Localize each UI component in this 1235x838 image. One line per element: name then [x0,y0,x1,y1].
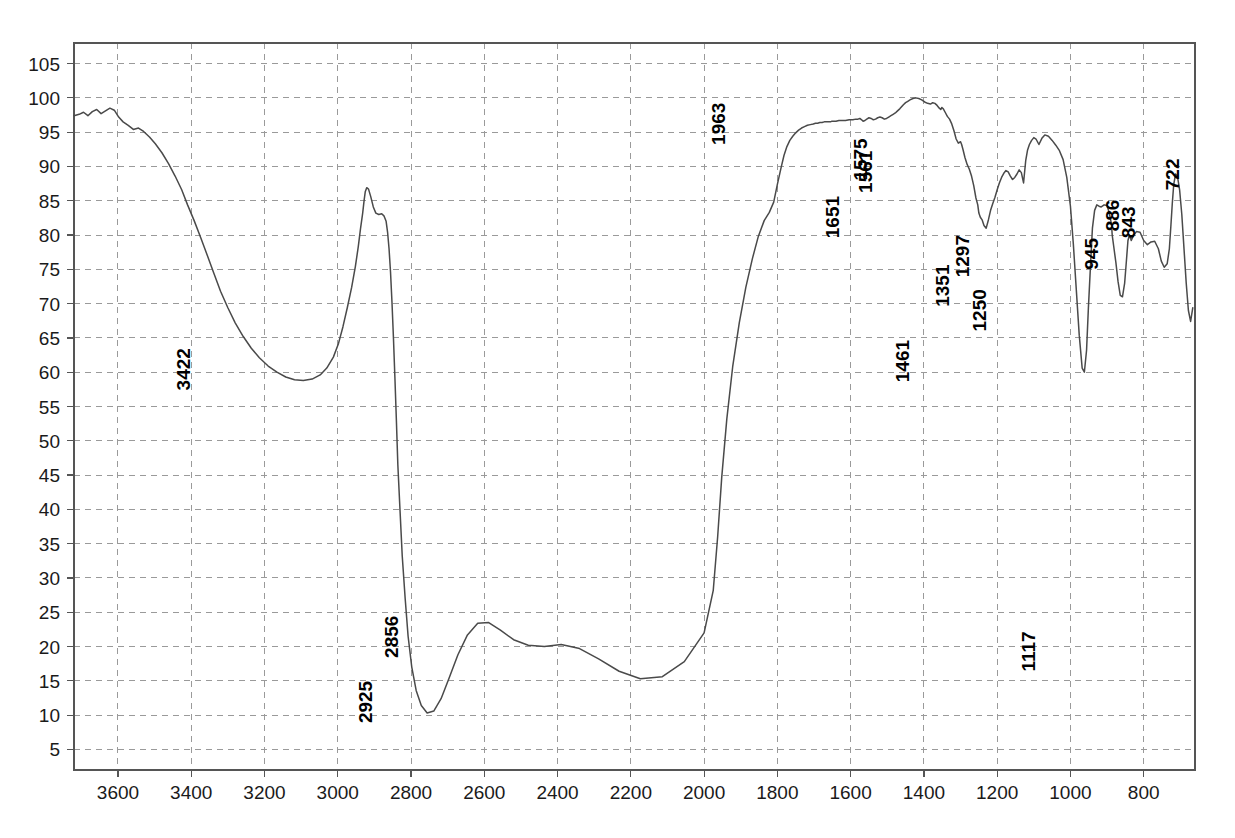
y-tick-label: 90 [39,156,60,177]
x-tick-label: 2800 [390,782,432,803]
peak-annotations: 3422292528561963165115751561146113511297… [173,103,1183,723]
x-tick-label: 3400 [170,782,212,803]
peak-label-2856: 2856 [381,616,402,658]
x-axis-tick-labels: 3600340032003000280026002400220020001800… [97,782,1160,803]
y-tick-label: 75 [39,259,60,280]
x-tick-label: 1600 [829,782,871,803]
y-tick-label: 50 [39,431,60,452]
peak-label-1351: 1351 [932,264,953,307]
y-tick-label: 60 [39,362,60,383]
y-tick-label: 40 [39,499,60,520]
y-tick-label: 10 [39,705,60,726]
y-tick-label: 70 [39,294,60,315]
peak-label-1651: 1651 [822,195,843,238]
x-tick-label: 3200 [243,782,285,803]
y-tick-label: 15 [39,671,60,692]
peak-label-945: 945 [1081,238,1102,270]
peak-label-1461: 1461 [892,339,913,382]
y-tick-label: 105 [28,54,60,75]
y-tick-label: 95 [39,122,60,143]
x-tick-label: 3000 [317,782,359,803]
spectrum-trace-group [74,98,1193,713]
x-tick-label: 1000 [1049,782,1091,803]
x-tick-label: 1400 [903,782,945,803]
ir-spectrum-figure: 3600340032003000280026002400220020001800… [0,0,1235,838]
y-tick-label: 100 [28,88,60,109]
x-tick-label: 1200 [976,782,1018,803]
y-tick-label: 85 [39,191,60,212]
peak-label-1117: 1117 [1018,631,1039,671]
peak-label-1561: 1561 [855,150,876,193]
peak-label-722: 722 [1162,158,1183,190]
y-tick-label: 55 [39,397,60,418]
x-tick-label: 800 [1128,782,1160,803]
peak-label-2925: 2925 [355,680,376,723]
peak-label-3422: 3422 [173,348,194,390]
peak-label-1250: 1250 [969,289,990,331]
peak-label-843: 843 [1118,206,1139,238]
x-tick-label: 2000 [683,782,725,803]
y-tick-label: 5 [49,739,60,760]
x-tick-label: 1800 [756,782,798,803]
peak-label-1963: 1963 [708,103,729,145]
axis-tick-marks [67,64,1144,777]
x-tick-label: 3600 [97,782,139,803]
peak-label-1297: 1297 [952,235,973,277]
spectrum-trace [74,98,1193,713]
y-tick-label: 35 [39,534,60,555]
y-tick-label: 30 [39,568,60,589]
y-tick-label: 45 [39,465,60,486]
y-tick-label: 65 [39,328,60,349]
x-tick-label: 2200 [610,782,652,803]
y-tick-label: 80 [39,225,60,246]
x-tick-label: 2600 [463,782,505,803]
y-axis-tick-labels: 5101520253035404550556065707580859095100… [28,54,60,761]
x-tick-label: 2400 [536,782,578,803]
spectrum-plot-canvas: 3600340032003000280026002400220020001800… [0,0,1235,838]
y-tick-label: 20 [39,637,60,658]
y-tick-label: 25 [39,602,60,623]
